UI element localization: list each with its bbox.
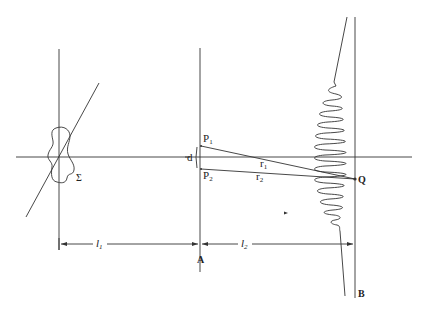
source-label: Σ	[76, 173, 82, 183]
source-blob	[48, 127, 74, 183]
l2-label: l2	[241, 238, 248, 251]
r2-label: r2	[256, 171, 263, 184]
interference-diagram: Σ d P1 P2 r1 r2 Q A B l1 l2	[0, 0, 423, 313]
point-Q	[353, 177, 356, 180]
l1-label: l1	[96, 238, 103, 251]
r1-label: r1	[260, 158, 267, 171]
interference-fringes	[315, 86, 347, 231]
B-label: B	[358, 289, 365, 299]
Q-label: Q	[358, 175, 366, 185]
P2-label: P2	[203, 170, 213, 183]
d-bracket	[196, 147, 197, 168]
diagram-canvas	[0, 0, 423, 313]
d-label: d	[187, 152, 193, 163]
P1-label: P1	[203, 133, 213, 146]
pattern-envelope-bottom	[340, 231, 345, 296]
slanted-line	[26, 83, 99, 217]
A-label: A	[197, 255, 204, 265]
pattern-envelope-top	[334, 17, 347, 86]
